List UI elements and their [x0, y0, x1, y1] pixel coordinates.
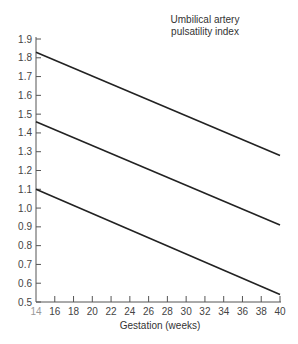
y-tick-label: 1.5 — [18, 109, 32, 120]
axes: 0.50.60.70.80.91.01.11.21.31.41.51.61.71… — [18, 34, 286, 318]
series-line-middle — [36, 122, 280, 225]
series-line-upper — [36, 52, 280, 155]
x-tick-label: 22 — [106, 306, 118, 317]
y-tick-label: 1.0 — [18, 203, 32, 214]
y-tick-label: 0.6 — [18, 278, 32, 289]
x-tick-label: 34 — [218, 306, 230, 317]
y-tick-label: 1.6 — [18, 90, 32, 101]
x-tick-label: 38 — [256, 306, 268, 317]
x-tick-label: 26 — [143, 306, 155, 317]
y-tick-label: 0.7 — [18, 259, 32, 270]
x-tick-label: 16 — [49, 306, 61, 317]
x-tick-label: 24 — [124, 306, 136, 317]
y-tick-label: 1.1 — [18, 184, 32, 195]
data-lines — [36, 52, 280, 294]
y-tick-label: 1.9 — [18, 34, 32, 45]
y-tick-label: 1.2 — [18, 165, 32, 176]
x-tick-label: 30 — [181, 306, 193, 317]
y-tick-label: 0.8 — [18, 240, 32, 251]
x-tick-label: 40 — [274, 306, 286, 317]
y-tick-label: 1.8 — [18, 52, 32, 63]
series-line-lower — [36, 189, 280, 294]
x-tick-label: 18 — [68, 306, 80, 317]
x-tick-label: 14 — [30, 306, 42, 317]
y-tick-label: 1.3 — [18, 146, 32, 157]
x-axis-label: Gestation (weeks) — [100, 320, 220, 331]
y-tick-label: 0.9 — [18, 221, 32, 232]
x-tick-label: 20 — [87, 306, 99, 317]
line-chart: 0.50.60.70.80.91.01.11.21.31.41.51.61.71… — [0, 0, 298, 344]
x-tick-label: 28 — [162, 306, 174, 317]
y-tick-label: 1.4 — [18, 127, 32, 138]
y-tick-label: 1.7 — [18, 71, 32, 82]
x-tick-label: 32 — [199, 306, 211, 317]
x-tick-label: 36 — [237, 306, 249, 317]
